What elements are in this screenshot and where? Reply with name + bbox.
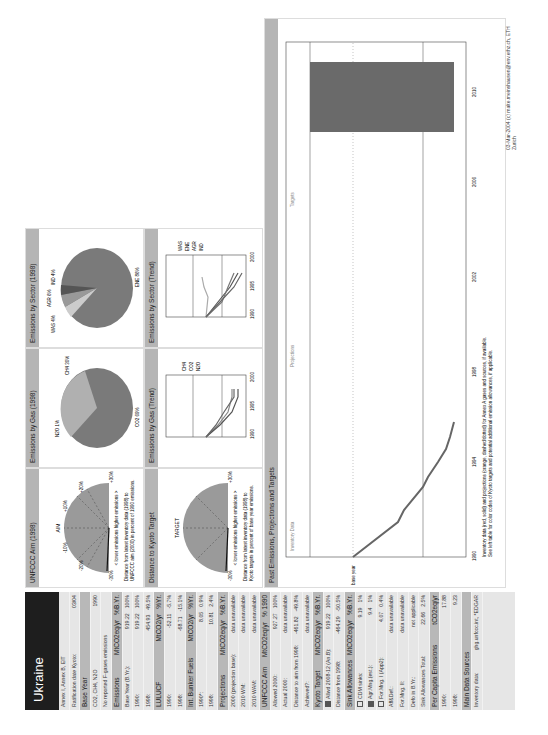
svg-text:1990: 1990 [250, 308, 255, 319]
table-row: Agr.Mng.(est.):9.41% [366, 592, 377, 710]
table-row: Aff&Def.:data unavailable [387, 592, 398, 710]
row-value: 9.23 [451, 595, 461, 605]
row-label: For.Mng. I (App2): [378, 657, 384, 699]
row-value: MtCO2/yr [186, 614, 196, 642]
row-value: 919.22 [123, 613, 133, 629]
row-value: MtCO2eq/yr [218, 620, 228, 655]
row-label: Allwd 2008-12 (An.B): [325, 649, 331, 699]
svg-text:Projections: Projections [290, 344, 295, 367]
table-row: EmissionsMtCO2eq/yr%B.Yr. [112, 592, 123, 710]
table-row: LULUCFMtCO2/yr%Yr. [154, 592, 165, 710]
svg-text:+10%: +10% [63, 500, 68, 512]
row-value: 100% [324, 595, 334, 608]
table-row: 1990*:8.050.9% [197, 592, 208, 710]
gas-pie-title: Emissions by Gas (1998) [26, 349, 39, 467]
row-label: 1990: [166, 694, 172, 707]
row-value: 1% [356, 595, 366, 603]
row-label: CO2, CH4, N2O [92, 670, 98, 707]
svg-text:-30%: -30% [109, 570, 114, 581]
svg-text:1994: 1994 [472, 456, 477, 467]
past-emissions-panel: Past Emissions, Projections and Targets … [264, 18, 506, 588]
row-label: Main Data Sources [463, 652, 470, 707]
row-value: -461.82 [292, 616, 302, 634]
row-value: data unavailable [387, 595, 397, 633]
row-label: 1990: [134, 694, 140, 707]
table-row: Annex I, Annex B, EIT [59, 592, 70, 710]
gas-trend-panel: Emissions by Gas (Trend) CH4 CO2 N2O 199… [144, 348, 263, 468]
row-value: 9.19 [356, 608, 366, 618]
table-row: Allowed 2000:927.27100% [271, 592, 282, 710]
row-label: 2010 WAM: [251, 680, 257, 707]
svg-text:< lower emissions higher em: < lower emissions higher emissions > [114, 490, 119, 565]
row-value: -52.11 [165, 614, 175, 628]
svg-text:AGR: AGR [192, 240, 197, 251]
svg-text:WAS: WAS [178, 241, 183, 251]
svg-text:Distance from latest inventory: Distance from latest inventory data (199… [124, 492, 129, 581]
table-row: Achieved?:data unavailable [303, 592, 314, 710]
row-value: %B.Yr. [112, 595, 122, 615]
table-row: UNFCCC AimMtCO2eq/yr% 1990 [260, 592, 271, 710]
table-row: 1990:17.88 [440, 592, 451, 710]
svg-text:TARGET: TARGET [174, 518, 180, 538]
table-row: Int. Bunker FuelsMtCO2/yr%Yr. [186, 592, 197, 710]
table-row: Sink Allowances Total:22.662.5% [419, 592, 430, 710]
svg-text:base year: base year [351, 565, 356, 585]
kyoto-gauge: TARGET -30%+30% < lower emissions higher… [158, 469, 263, 587]
row-value: 100% [133, 595, 143, 608]
svg-text:1995: 1995 [250, 400, 255, 411]
row-label: Projections [219, 675, 226, 707]
svg-text:-20%: -20% [79, 560, 84, 571]
aim-panel: UNFCCC Aim (1998) AIM -30%+30% -20%+20% … [25, 468, 144, 588]
row-label: CDM sinks: [357, 672, 363, 699]
row-value: 919.22 [133, 613, 143, 629]
row-value: ghg.unfccc.int, *EDGAR [472, 595, 482, 650]
footer-credit: 03-Mar-2004 (c) malte.meinshausen@env.et… [505, 20, 517, 150]
row-label: Achieved?: [304, 681, 310, 707]
gas-trend-title: Emissions by Gas (Trend) [145, 349, 158, 467]
row-value: MtCO2eq/yr [313, 620, 323, 655]
table-row: 1998:-68.71-15.1% [176, 592, 187, 710]
svg-text:Targets: Targets [290, 191, 295, 207]
table-row: Distance from 1998:-464.29-50.5% [334, 592, 345, 710]
svg-text:N2O: N2O [196, 361, 201, 371]
row-label: Annex I, Annex B, EIT [60, 656, 66, 707]
row-label: 1990: [441, 694, 447, 707]
svg-text:ENE 86%: ENE 86% [135, 267, 140, 287]
row-label: 1998: [177, 694, 183, 707]
row-value: tCO2eq/yr [430, 595, 440, 625]
country-sidebar: Ukraine Annex I, Annex B, EITRatificatio… [25, 592, 515, 710]
row-value: 0.4% [377, 595, 387, 607]
svg-text:IND 4%: IND 4% [51, 269, 56, 285]
table-row: No reported F-gases emissions [101, 592, 112, 710]
row-value: MtCO2eq/yr [345, 620, 355, 655]
gas-pie-panel: Emissions by Gas (1998) N2O 1% CH4 30% C… [25, 348, 144, 468]
svg-text:WAS 4%: WAS 4% [51, 315, 56, 333]
table-row: ProjectionsMtCO2eq/yr%B.Yr. [218, 592, 229, 710]
sector-trend-title: Emissions by Sector (Trend) [145, 229, 158, 347]
table-row: 1990:919.22100% [133, 592, 144, 710]
svg-text:2000: 2000 [250, 371, 255, 382]
row-value: -68.71 [176, 616, 186, 631]
row-label: Base Year [81, 677, 88, 707]
row-value: 0.9% [197, 595, 207, 607]
svg-text:+30%: +30% [228, 471, 233, 483]
row-value: data unavailable [398, 595, 408, 633]
row-label: 2000 (projection base): [230, 654, 236, 707]
table-row: Actual 2000:data unavailable [281, 592, 292, 710]
svg-text:CO2: CO2 [189, 361, 194, 371]
country-title: Ukraine [25, 592, 59, 710]
sector-pie-title: Emissions by Sector (1998) [26, 229, 39, 347]
row-value: %Yr. [154, 595, 164, 609]
row-value: 927.27 [271, 613, 281, 629]
row-value: %Yr. [186, 595, 196, 609]
row-value: 9.4 [366, 608, 376, 615]
row-value: 454.93 [144, 615, 154, 631]
row-value: data unavailable [281, 595, 291, 633]
row-label: Actual 2000: [282, 678, 288, 707]
row-value: 1990 [91, 595, 101, 607]
svg-text:See left table for color codes: See left table for color codes of Kyoto … [488, 350, 493, 557]
row-value: 919.22 [324, 613, 334, 629]
table-row: Inventory data:ghg.unfccc.int, *EDGAR [472, 592, 483, 710]
row-value: -50.5% [334, 595, 344, 611]
row-label: Sink Allowances [346, 660, 353, 707]
